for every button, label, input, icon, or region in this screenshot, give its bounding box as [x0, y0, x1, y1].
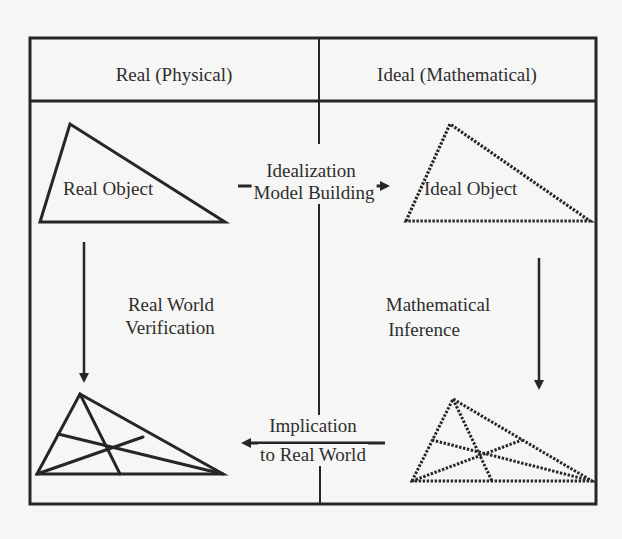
inference-label-line1: Mathematical [386, 294, 490, 316]
ideal-object-triangle [406, 124, 590, 221]
implication-label-line1: Implication [267, 415, 359, 437]
idealization-label: Idealization [266, 160, 356, 182]
left-column-header: Real (Physical) [116, 64, 233, 86]
implication-label-line2: to Real World [258, 444, 368, 466]
ideal-result-triangle [412, 399, 592, 481]
real-result-triangle [37, 394, 223, 474]
verification-label-line2: Verification [125, 317, 215, 339]
right-column-header: Ideal (Mathematical) [377, 64, 537, 86]
model-building-label: Model Building [252, 182, 377, 204]
real-object-triangle [40, 124, 225, 222]
verification-label-line1: Real World [128, 294, 214, 316]
ideal-object-label: Ideal Object [424, 178, 517, 200]
real-object-label: Real Object [63, 178, 153, 200]
inference-label-line2: Inference [388, 319, 460, 341]
